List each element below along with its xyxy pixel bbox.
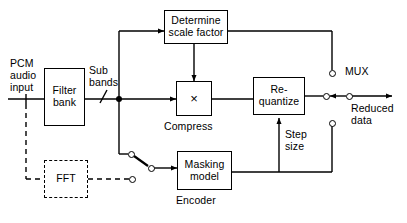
label-encoder: Encoder: [176, 194, 216, 206]
label-compress: Compress: [164, 120, 213, 132]
mux-common-terminal[interactable]: [346, 93, 353, 100]
block-filter-bank[interactable]: Filter bank: [44, 68, 85, 126]
switch-blade: [134, 156, 148, 166]
slash-sub-bands: [100, 90, 107, 103]
block-fft[interactable]: FFT: [44, 160, 88, 198]
junction-sub-bands: [116, 96, 122, 102]
switch-contact-sub-bands[interactable]: [128, 151, 135, 158]
label-reduced-data: Reduced data: [351, 102, 394, 126]
multiply-icon: ×: [190, 92, 198, 105]
block-filter-bank-label: Filter bank: [45, 85, 84, 109]
block-fft-label: FFT: [56, 173, 76, 185]
label-sub-bands: Sub bands: [89, 64, 118, 88]
mux-contact-masking[interactable]: [329, 120, 336, 127]
encoder-block-diagram: Filter bank Determine scale factor × Re-…: [0, 0, 407, 223]
block-requantize[interactable]: Re- quantize: [253, 77, 305, 115]
mux-contact-scale-factor[interactable]: [329, 70, 336, 77]
block-masking-model-label: Masking model: [178, 159, 231, 183]
block-compress-multiplier[interactable]: ×: [176, 81, 212, 116]
block-requantize-label: Re- quantize: [254, 84, 304, 108]
mux-contact-requantized[interactable]: [323, 93, 330, 100]
label-mux: MUX: [345, 65, 369, 77]
label-pcm-audio-input: PCM audio input: [10, 57, 36, 93]
block-determine-scale-factor-label: Determine scale factor: [165, 15, 227, 39]
switch-contact-fft[interactable]: [129, 176, 136, 183]
label-step-size: Step size: [285, 128, 307, 152]
switch-common-terminal[interactable]: [148, 165, 155, 172]
block-determine-scale-factor[interactable]: Determine scale factor: [164, 10, 228, 44]
block-masking-model[interactable]: Masking model: [177, 151, 232, 190]
